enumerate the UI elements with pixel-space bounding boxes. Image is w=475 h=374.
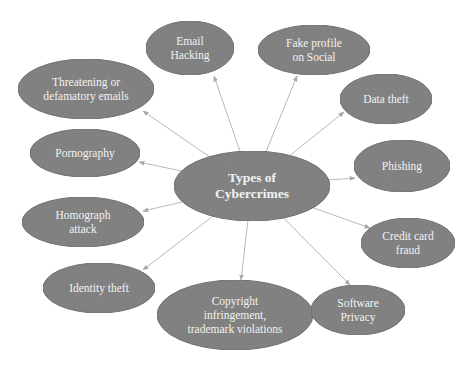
node-homograph-attack — [22, 197, 144, 247]
node-data-theft — [340, 74, 432, 124]
edge-arrow-identity-theft — [143, 213, 217, 270]
node-software-privacy — [311, 285, 405, 335]
node-pornography — [30, 129, 140, 177]
center-node — [174, 151, 330, 221]
node-copyright — [157, 280, 313, 350]
node-phishing — [354, 140, 450, 192]
node-credit-card-fraud — [361, 218, 455, 268]
node-identity-theft — [43, 263, 155, 313]
edge-arrow-data-theft — [286, 112, 344, 158]
edge-arrow-software-privacy — [280, 215, 350, 285]
edge-arrow-email-hacking — [214, 76, 241, 155]
edge-arrow-copyright — [241, 217, 248, 280]
edge-arrow-fake-profile — [265, 76, 297, 155]
nodes — [18, 21, 455, 350]
edge-arrow-threatening-emails — [143, 111, 214, 160]
node-fake-profile — [258, 25, 370, 75]
node-threatening-emails — [18, 59, 154, 119]
node-email-hacking — [146, 21, 234, 75]
edge-arrow-credit-card-fraud — [307, 206, 370, 228]
cybercrime-diagram — [0, 0, 475, 374]
